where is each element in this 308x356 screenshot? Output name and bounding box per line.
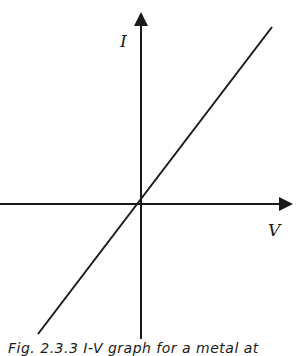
y-axis-arrowhead-icon — [134, 12, 148, 26]
figure-caption: Fig. 2.3.3 I-V graph for a metal at — [8, 340, 259, 356]
x-axis-arrowhead-icon — [279, 197, 293, 211]
iv-line — [38, 27, 272, 334]
x-axis-label: V — [268, 220, 280, 240]
y-axis-label: I — [120, 31, 127, 51]
